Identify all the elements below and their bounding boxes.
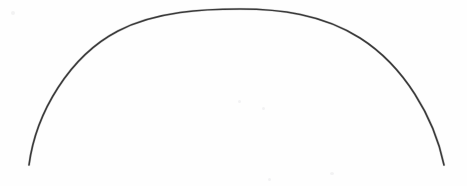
arc-drawing <box>0 0 467 186</box>
arc-path-halo <box>29 9 444 165</box>
arc-path <box>29 9 444 165</box>
figure-canvas: Arc A single hand-drawn arc forming an o… <box>0 0 467 186</box>
